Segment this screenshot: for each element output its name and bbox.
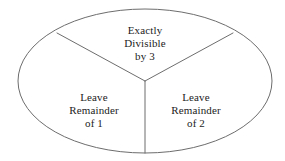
division-remainder-diagram: Exactly Divisible by 3 Leave Remainder o…	[0, 0, 285, 161]
region-label-line: Remainder	[44, 104, 144, 117]
region-label-line: Divisible	[95, 37, 195, 50]
region-label-leave-remainder-of-2: Leave Remainder of 2	[146, 91, 246, 131]
region-label-line: Remainder	[146, 104, 246, 117]
region-label-line: Exactly	[95, 24, 195, 37]
region-label-line: of 1	[44, 117, 144, 130]
region-label-line: of 2	[146, 117, 246, 130]
region-label-exactly-divisible: Exactly Divisible by 3	[95, 24, 195, 64]
region-label-leave-remainder-of-1: Leave Remainder of 1	[44, 91, 144, 131]
region-label-line: Leave	[44, 91, 144, 104]
region-label-line: Leave	[146, 91, 246, 104]
region-label-line: by 3	[95, 50, 195, 63]
